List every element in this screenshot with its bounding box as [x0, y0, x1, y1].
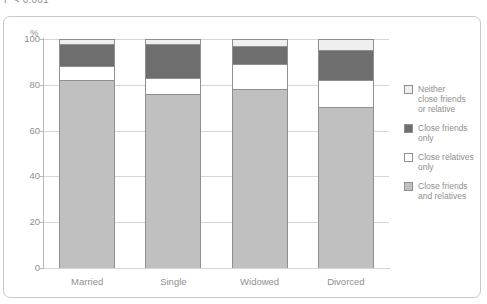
y-tick-mark-80	[39, 85, 43, 86]
bar-segment-divorced-neither[interactable]	[319, 40, 373, 51]
x-tick-label-widowed: Widowed	[215, 276, 305, 287]
legend-label-3: Close friendsand relatives	[418, 181, 468, 201]
bar-segment-married-friends[interactable]	[60, 45, 114, 68]
y-tick-mark-40	[39, 176, 43, 177]
bar-segment-widowed-neither[interactable]	[233, 40, 287, 47]
legend-swatch-2	[404, 153, 413, 162]
legend-label-0: Neitherclose friendsor relative	[418, 84, 466, 114]
bar-segment-widowed-both[interactable]	[233, 90, 287, 268]
y-tick-label-100: 100	[10, 34, 40, 44]
bar-segment-single-friends[interactable]	[146, 45, 200, 79]
y-axis-tick-labels: 020406080100	[6, 0, 40, 304]
legend-swatch-3	[404, 182, 413, 191]
y-tick-label-80: 80	[10, 80, 40, 90]
bar-segment-single-both[interactable]	[146, 95, 200, 268]
x-tick-label-married: Married	[42, 276, 132, 287]
y-tick-mark-20	[39, 222, 43, 223]
gridline-0	[44, 268, 389, 269]
legend-swatch-1	[404, 124, 413, 133]
bar-segment-widowed-relatives[interactable]	[233, 65, 287, 90]
legend-item-2[interactable]: Close relativesonly	[404, 152, 484, 172]
plot-area	[44, 39, 389, 268]
legend-item-3[interactable]: Close friendsand relatives	[404, 181, 484, 201]
y-tick-label-0: 0	[10, 263, 40, 273]
bar-segment-widowed-friends[interactable]	[233, 47, 287, 65]
bar-married[interactable]	[59, 39, 115, 268]
legend-item-1[interactable]: Close friendsonly	[404, 123, 484, 143]
bar-segment-single-relatives[interactable]	[146, 79, 200, 95]
bar-divorced[interactable]	[318, 39, 374, 268]
y-tick-label-40: 40	[10, 171, 40, 181]
y-tick-label-60: 60	[10, 126, 40, 136]
legend-item-0[interactable]: Neitherclose friendsor relative	[404, 84, 484, 114]
x-tick-label-divorced: Divorced	[301, 276, 391, 287]
x-tick-label-single: Single	[128, 276, 218, 287]
y-tick-mark-60	[39, 131, 43, 132]
legend-label-1: Close friendsonly	[418, 123, 468, 143]
y-tick-mark-100	[39, 39, 43, 40]
y-tick-label-20: 20	[10, 217, 40, 227]
legend-label-2: Close relativesonly	[418, 152, 474, 172]
bar-segment-married-both[interactable]	[60, 81, 114, 268]
legend-swatch-0	[404, 85, 413, 94]
bar-widowed[interactable]	[232, 39, 288, 268]
bar-segment-divorced-friends[interactable]	[319, 51, 373, 81]
bar-segment-divorced-relatives[interactable]	[319, 81, 373, 108]
bar-segment-married-relatives[interactable]	[60, 67, 114, 81]
chart-legend: Neitherclose friendsor relativeClose fri…	[404, 84, 484, 210]
bar-single[interactable]	[145, 39, 201, 268]
y-tick-mark-0	[39, 268, 43, 269]
bar-segment-divorced-both[interactable]	[319, 108, 373, 268]
